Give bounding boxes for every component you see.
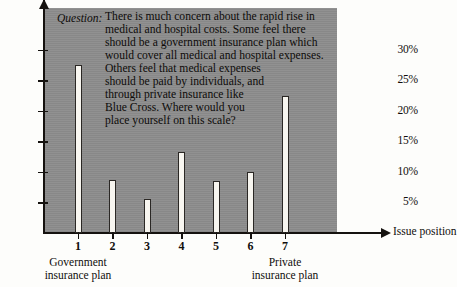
x-axis-arrow-icon <box>381 228 391 238</box>
x-tick-label-1: 1 <box>68 240 88 252</box>
y-tick-20 <box>38 111 48 113</box>
bar-4 <box>178 152 185 233</box>
y-tick-label-15: 15% <box>382 135 418 147</box>
x-tick-3 <box>147 232 149 239</box>
x-axis-endcap-right: Private insurance plan <box>230 256 340 281</box>
y-axis-arrow-icon <box>39 0 49 9</box>
bar-1 <box>75 65 82 233</box>
question-label: Question: <box>57 13 102 25</box>
question-line-6: should be paid by individuals, and <box>105 75 333 88</box>
y-tick-5 <box>38 202 48 204</box>
y-tick-label-10: 10% <box>382 166 418 178</box>
endcap-right-line-2: insurance plan <box>230 269 340 282</box>
x-tick-1 <box>78 232 80 239</box>
endcap-right-line-1: Private <box>230 256 340 269</box>
y-tick-label-25: 25% <box>382 74 418 86</box>
x-tick-label-7: 7 <box>275 240 295 252</box>
x-tick-label-6: 6 <box>241 240 261 252</box>
y-tick-label-5: 5% <box>382 196 418 208</box>
x-tick-6 <box>250 232 252 239</box>
y-tick-30 <box>38 50 48 52</box>
x-tick-5 <box>216 232 218 239</box>
question-line-7: through private insurance like <box>105 88 333 101</box>
question-line-5: Others feel that medical expenses <box>105 62 333 75</box>
question-line-3: should be a government insurance plan wh… <box>105 36 333 49</box>
x-tick-label-4: 4 <box>172 240 192 252</box>
question-line-8: Blue Cross. Where would you <box>105 101 333 114</box>
x-tick-2 <box>112 232 114 239</box>
question-body: There is much concern about the rapid ri… <box>105 10 333 127</box>
y-axis-line <box>43 0 45 233</box>
bar-6 <box>247 172 254 233</box>
x-tick-label-5: 5 <box>206 240 226 252</box>
question-line-1: There is much concern about the rapid ri… <box>105 10 333 23</box>
bar-3 <box>144 199 151 233</box>
x-tick-7 <box>285 232 287 239</box>
x-tick-label-2: 2 <box>103 240 123 252</box>
endcap-left-line-2: insurance plan <box>23 269 133 282</box>
question-line-9: place yourself on this scale? <box>105 114 333 127</box>
y-tick-15 <box>38 141 48 143</box>
y-tick-label-20: 20% <box>382 105 418 117</box>
y-tick-25 <box>38 80 48 82</box>
question-line-4: would cover all medical and hospital exp… <box>105 49 333 62</box>
endcap-left-line-1: Government <box>23 256 133 269</box>
y-tick-label-30: 30% <box>382 44 418 56</box>
x-axis-title: Issue position <box>393 226 457 238</box>
bar-2 <box>109 180 116 233</box>
bar-5 <box>213 181 220 234</box>
y-tick-10 <box>38 172 48 174</box>
x-tick-label-3: 3 <box>137 240 157 252</box>
question-line-2: medical and hospital costs. Some feel th… <box>105 23 333 36</box>
x-tick-4 <box>181 232 183 239</box>
x-axis-endcap-left: Government insurance plan <box>23 256 133 281</box>
